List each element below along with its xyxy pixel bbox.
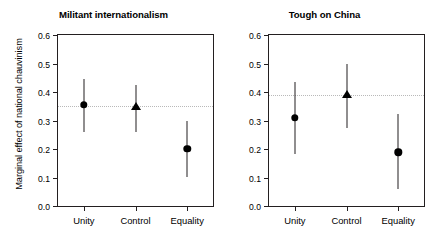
plot-area: 0.00.10.20.30.40.50.6UnityControlEqualit… [268, 34, 425, 207]
x-axis-tick-label: Unity [73, 215, 94, 226]
y-axis-tick: 0.3 [264, 121, 269, 122]
y-axis-tick: 0.1 [264, 178, 269, 179]
y-axis-tick: 0.5 [264, 64, 269, 65]
data-point-marker [131, 102, 141, 110]
y-axis-tick: 0.5 [53, 64, 58, 65]
panel-militant-internationalism: Militant internationalism 0.00.10.20.30.… [7, 0, 220, 251]
data-point-marker [342, 90, 352, 98]
x-axis-tick-label: Equality [170, 215, 203, 226]
y-axis-tick-label: 0.6 [249, 31, 261, 41]
x-axis-tick [347, 206, 348, 211]
y-axis-tick: 0.2 [264, 149, 269, 150]
panel-title: Militant internationalism [7, 9, 220, 20]
plot-area: 0.00.10.20.30.40.50.6UnityControlEqualit… [57, 34, 214, 207]
data-point-marker [291, 114, 298, 121]
x-axis-tick [295, 206, 296, 211]
x-axis-tick-label: Control [331, 215, 361, 226]
x-axis-tick [398, 206, 399, 211]
x-axis-tick [187, 206, 188, 211]
y-axis-tick-label: 0.4 [249, 88, 261, 98]
data-point-marker [80, 101, 87, 108]
data-point-marker [394, 149, 401, 156]
y-axis-tick-label: 0.3 [38, 117, 50, 127]
y-axis-tick-label: 0.6 [38, 31, 50, 41]
data-point-marker [183, 145, 190, 152]
y-axis-tick: 0.4 [53, 92, 58, 93]
x-axis-tick [136, 206, 137, 211]
y-axis-tick: 0.1 [53, 178, 58, 179]
y-axis-tick: 0.6 [53, 35, 58, 36]
y-axis-tick: 0.2 [53, 149, 58, 150]
x-axis-tick-label: Unity [284, 215, 305, 226]
panel-title: Tough on China [218, 9, 431, 20]
y-axis-tick: 0.4 [264, 92, 269, 93]
y-axis-tick: 0.0 [264, 206, 269, 207]
y-axis-tick-label: 0.0 [38, 202, 50, 212]
y-axis-tick-label: 0.2 [38, 145, 50, 155]
x-axis-tick [84, 206, 85, 211]
figure: Marginal effect of national chauvinism M… [0, 0, 434, 251]
y-axis-tick-label: 0.1 [249, 174, 261, 184]
y-axis-tick-label: 0.4 [38, 88, 50, 98]
y-axis-tick-label: 0.5 [249, 60, 261, 70]
y-axis-tick: 0.6 [264, 35, 269, 36]
y-axis-tick-label: 0.2 [249, 145, 261, 155]
y-axis-tick-label: 0.0 [249, 202, 261, 212]
y-axis-tick: 0.0 [53, 206, 58, 207]
y-axis-tick-label: 0.5 [38, 60, 50, 70]
panel-tough-on-china: Tough on China 0.00.10.20.30.40.50.6Unit… [218, 0, 431, 251]
x-axis-tick-label: Control [120, 215, 150, 226]
x-axis-tick-label: Equality [381, 215, 414, 226]
y-axis-tick: 0.3 [53, 121, 58, 122]
y-axis-tick-label: 0.3 [249, 117, 261, 127]
y-axis-tick-label: 0.1 [38, 174, 50, 184]
